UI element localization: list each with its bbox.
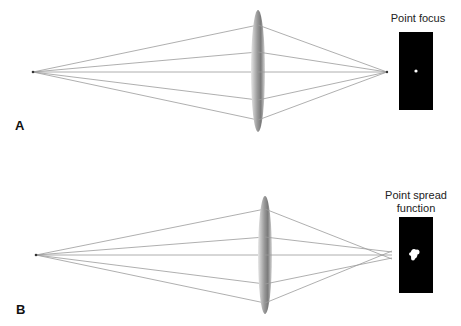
panel-label-a: A [15,118,24,133]
focal-point-a [386,71,388,73]
panel-label-b: B [16,302,25,317]
optics-diagram [0,0,461,326]
point-focus-spot [414,69,417,72]
panel-a [32,10,433,132]
caption-point-focus: Point focus [386,12,450,25]
refracted-rays-a [258,25,387,120]
incident-rays-a [33,25,258,120]
source-point-a [32,71,35,74]
caption-point-spread-function: Point spread function [380,189,452,215]
caption-line: Point focus [386,12,450,25]
source-point-b [35,254,38,257]
incident-rays-b [36,209,265,303]
convex-lens-a [251,10,265,132]
panel-b [35,196,433,314]
caption-line: Point spread [380,189,452,202]
caption-line: function [380,202,452,215]
refracted-rays-b [265,209,392,303]
